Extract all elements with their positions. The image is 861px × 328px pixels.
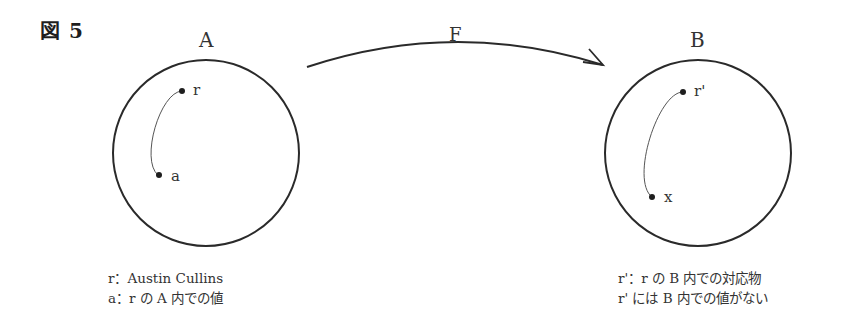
point-a-dot — [156, 172, 162, 178]
set-a-label: A — [199, 28, 213, 52]
point-x-dot — [649, 194, 655, 200]
set-b-caption-line1: r'：r の B 内での対応物 — [618, 268, 768, 288]
set-b-label: B — [690, 28, 705, 52]
set-a-caption: r：Austin Cullins a：r の A 内での値 — [108, 268, 223, 308]
point-r-prime-label: r' — [694, 82, 705, 100]
set-b-caption-line2: r' には B 内での値がない — [618, 288, 768, 308]
mapping-label: F — [449, 24, 462, 45]
set-b-caption: r'：r の B 内での対応物 r' には B 内での値がない — [618, 268, 768, 308]
mapping-arrow — [307, 42, 603, 67]
point-r-prime-dot — [680, 89, 686, 95]
set-a-curve — [151, 91, 182, 175]
set-a-caption-line2: a：r の A 内での値 — [108, 288, 223, 308]
set-b-curve — [644, 92, 683, 197]
set-a-circle — [113, 60, 299, 246]
set-a-caption-line1: r：Austin Cullins — [108, 268, 223, 288]
arrowhead-icon — [583, 49, 603, 65]
point-r-label: r — [193, 81, 200, 99]
point-a-label: a — [171, 167, 180, 185]
point-x-label: x — [664, 188, 672, 206]
point-r-dot — [179, 88, 185, 94]
